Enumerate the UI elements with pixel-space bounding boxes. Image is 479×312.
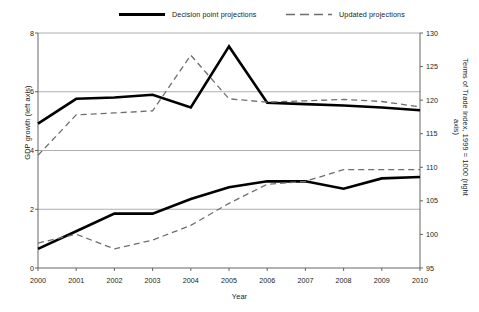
axis-ticks [35,33,423,271]
chart-figure: Decision point projections Updated proje… [0,0,479,312]
x-tick-label: 2000 [22,276,54,285]
y-tick-label-right: 110 [426,163,437,172]
y-tick-label-right: 125 [426,62,438,71]
x-tick-label: 2003 [137,276,169,285]
y-tick-label-left: 8 [20,29,34,38]
x-tick-label: 2004 [175,276,207,285]
series-line-terms-of-trade-dashed [38,55,420,155]
y-axis-label-right: Terms of Trade Index, 1999 = 1000 (right… [452,52,470,202]
x-tick-label: 2010 [404,276,436,285]
y-tick-label-right: 100 [426,230,438,239]
x-tick-label: 2009 [366,276,398,285]
x-tick-label: 2008 [328,276,360,285]
x-tick-label: 2007 [289,276,321,285]
y-tick-label-right: 115 [426,129,437,138]
y-tick-label-right: 130 [426,29,438,38]
x-tick-label: 2002 [98,276,130,285]
y-axis-label-left: GDP growth (left axis) [23,48,32,198]
data-series [38,46,420,248]
x-axis-label: Year [0,292,479,301]
x-tick-label: 2006 [251,276,283,285]
series-line-terms-of-trade-solid [38,46,420,123]
series-line-gdp-growth-solid [38,177,420,249]
chart-plot-area [0,0,479,312]
x-tick-label: 2005 [213,276,245,285]
y-tick-label-right: 105 [426,196,438,205]
y-tick-label-left: 2 [20,205,34,214]
y-tick-label-right: 95 [426,264,434,273]
x-tick-label: 2001 [60,276,92,285]
y-tick-label-left: 0 [20,264,34,273]
y-tick-label-right: 120 [426,96,438,105]
